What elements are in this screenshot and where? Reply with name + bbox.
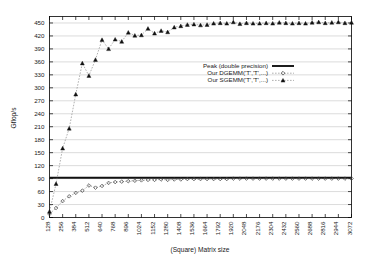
y-tick-label: 120 (34, 162, 45, 169)
y-tick-label: 210 (34, 123, 45, 130)
x-tick-label: 2816 (319, 221, 326, 235)
x-tick-label: 2432 (280, 221, 287, 235)
y-tick-label: 150 (34, 149, 45, 156)
y-tick-label: 390 (34, 45, 45, 52)
y-tick-label: 90 (38, 175, 45, 182)
x-tick-label: 256 (57, 221, 64, 232)
x-tick-label: 896 (122, 221, 129, 232)
legend-label: Our SGEMM('T','T',...) (208, 76, 268, 83)
y-tick-label: 270 (34, 97, 45, 104)
x-tick-label: 3072 (346, 221, 353, 235)
y-tick-label: 360 (34, 58, 45, 65)
x-axis-title: (Square) Matrix size (171, 246, 230, 254)
legend-label: Peak (double precision) (203, 62, 268, 69)
x-tick-label: 1152 (149, 221, 156, 235)
y-tick-label: 420 (34, 32, 45, 39)
y-tick-label: 300 (34, 84, 45, 91)
x-tick-label: 1664 (201, 221, 208, 235)
x-tick-label: 1280 (162, 221, 169, 235)
y-tick-label: 30 (38, 201, 45, 208)
y-tick-label: 450 (34, 19, 45, 26)
y-tick-label: 330 (34, 71, 45, 78)
x-tick-label: 2944 (332, 221, 339, 235)
x-tick-label: 2176 (254, 221, 261, 235)
x-tick-label: 1024 (135, 221, 142, 235)
x-tick-label: 640 (96, 221, 103, 232)
x-tick-label: 768 (109, 221, 116, 232)
x-tick-label: 384 (70, 221, 77, 232)
x-tick-label: 1536 (188, 221, 195, 235)
y-tick-label: 180 (34, 136, 45, 143)
legend-label: Our DGEMM('T','T',...) (207, 69, 268, 76)
x-tick-label: 1408 (175, 221, 182, 235)
y-tick-label: 240 (34, 110, 45, 117)
y-tick-label: 0 (41, 214, 45, 221)
chart-container: 0306090120150180210240270300330360390420… (0, 0, 375, 262)
x-tick-label: 1792 (214, 221, 221, 235)
x-tick-label: 2688 (306, 221, 313, 235)
y-axis-title: Gflop/s (10, 107, 18, 129)
x-tick-label: 1920 (227, 221, 234, 235)
x-tick-label: 512 (83, 221, 90, 232)
x-tick-label: 128 (44, 221, 51, 232)
x-tick-label: 2048 (240, 221, 247, 235)
y-tick-label: 60 (38, 188, 45, 195)
x-tick-label: 2560 (293, 221, 300, 235)
gflops-vs-matrix-size-chart: 0306090120150180210240270300330360390420… (0, 0, 375, 262)
x-tick-label: 2304 (267, 221, 274, 235)
